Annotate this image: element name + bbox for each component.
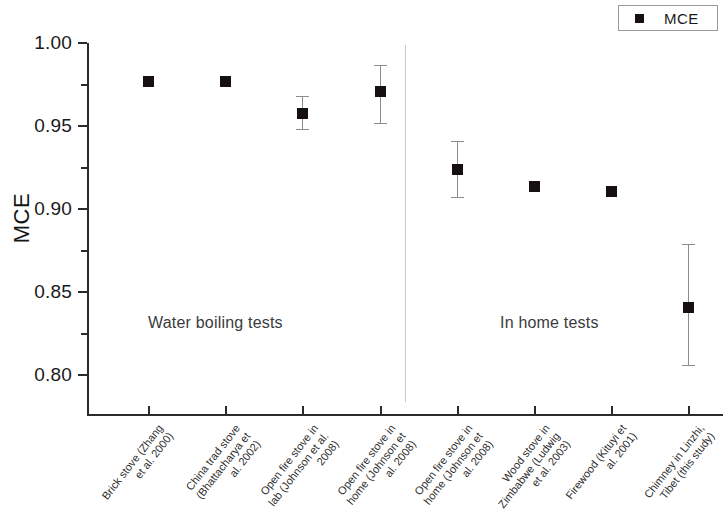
y-tick-major — [78, 374, 87, 376]
x-tick — [534, 406, 536, 416]
group-divider-line — [405, 45, 406, 402]
x-tick — [225, 406, 227, 416]
section-annotation: In home tests — [500, 314, 599, 332]
plot-area: MCE 1.000.950.900.850.80 Brick stove (Zh… — [0, 0, 726, 525]
y-axis-line — [87, 43, 89, 416]
error-bar-cap-lower — [682, 365, 695, 366]
error-bar-cap-upper — [682, 244, 695, 245]
error-bar-cap-lower — [374, 123, 387, 124]
section-annotation: Water boiling tests — [148, 314, 283, 332]
y-tick-major — [78, 42, 87, 44]
y-tick-label: 0.90 — [16, 198, 72, 220]
data-point-marker — [683, 302, 694, 313]
y-tick-major — [78, 208, 87, 210]
x-tick — [457, 406, 459, 416]
x-tick — [688, 406, 690, 416]
y-tick-major — [78, 291, 87, 293]
y-tick-minor — [81, 333, 87, 335]
data-point-marker — [220, 76, 231, 87]
y-tick-label: 0.95 — [16, 115, 72, 137]
data-point-marker — [452, 164, 463, 175]
x-tick-label: Open fire stove inhome (Johnson etal. 20… — [411, 422, 496, 515]
y-tick-minor — [81, 84, 87, 86]
data-point-marker — [375, 86, 386, 97]
data-point-marker — [143, 76, 154, 87]
error-bar-cap-upper — [374, 65, 387, 66]
x-tick-label: China trad stove(Bhattacharya etal. 2002… — [183, 422, 263, 510]
error-bar-cap-lower — [296, 129, 309, 130]
y-tick-major — [78, 125, 87, 127]
data-point-marker — [297, 108, 308, 119]
x-tick-label: Open fire stove inhome (Johnson etal. 20… — [333, 422, 418, 515]
data-point-marker — [529, 181, 540, 192]
data-point-marker — [606, 186, 617, 197]
x-tick — [148, 406, 150, 416]
error-bar-cap-upper — [296, 96, 309, 97]
y-tick-label: 0.85 — [16, 281, 72, 303]
y-tick-label: 0.80 — [16, 364, 72, 386]
x-tick-label: Brick stove (Zhanget al. 2000) — [100, 422, 177, 510]
y-tick-minor — [81, 250, 87, 252]
x-tick-label: Wood stove inZimbabwe (Ludwiget al. 2003… — [485, 422, 573, 519]
x-tick-label: Open fire stove inlab (Johnson et al.200… — [255, 422, 341, 517]
x-tick-label: Firewood (Kituyi etal. 2001) — [563, 422, 640, 510]
x-tick — [302, 406, 304, 416]
y-tick-minor — [81, 167, 87, 169]
chart-figure: MCE MCE 1.000.950.900.850.80 Brick stove… — [0, 0, 726, 525]
x-tick — [611, 406, 613, 416]
x-axis-line — [87, 414, 723, 416]
x-tick — [380, 406, 382, 416]
y-tick-label: 1.00 — [16, 32, 72, 54]
error-bar-cap-upper — [451, 141, 464, 142]
error-bar-cap-lower — [451, 197, 464, 198]
x-tick-label: Chimney in Linzhi,Tibet (this study) — [641, 422, 717, 509]
